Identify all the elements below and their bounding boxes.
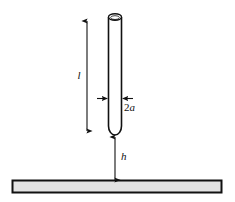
diameter-symbol: a bbox=[130, 101, 136, 113]
diameter-label: 2a bbox=[124, 101, 136, 113]
cylindrical-tube bbox=[109, 14, 122, 135]
gap-height-label: h bbox=[121, 150, 127, 162]
horizontal-plate bbox=[13, 181, 222, 193]
figure-container: l 2a h bbox=[0, 0, 235, 202]
tube-outline bbox=[109, 17, 122, 135]
plate-body bbox=[13, 181, 222, 193]
length-label: l bbox=[77, 69, 80, 81]
tube-above-plate-diagram: l 2a h bbox=[0, 0, 235, 202]
